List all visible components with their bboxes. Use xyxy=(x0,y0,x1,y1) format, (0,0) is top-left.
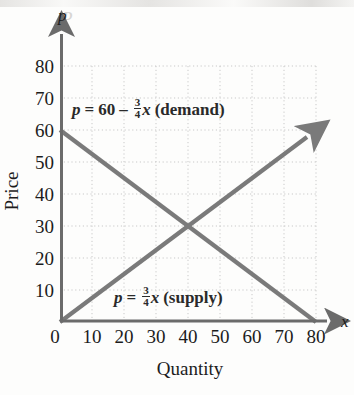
supply-eq-tag: (supply) xyxy=(159,288,223,308)
y-tick-label-70: 70 xyxy=(20,89,54,108)
supply-eq-variable: x xyxy=(151,288,160,308)
y-tick-label-10: 10 xyxy=(20,281,54,300)
y-tick-label-80: 80 xyxy=(20,57,54,76)
x-tick-label-80: 80 xyxy=(299,327,333,346)
y-tick-label-30: 30 xyxy=(20,217,54,236)
demand-equation-label: p = 60 – 3 4 x (demand) xyxy=(72,98,225,121)
demand-eq-minus: – xyxy=(115,100,132,120)
y-tick-label-20: 20 xyxy=(20,249,54,268)
origin-label: 0 xyxy=(44,327,66,346)
x-axis-variable-label: x xyxy=(341,312,349,332)
y-tick-label-50: 50 xyxy=(20,153,54,172)
supply-demand-chart-figure: D xyxy=(0,0,354,395)
demand-eq-variable: x xyxy=(142,100,151,120)
supply-eq-p: p xyxy=(114,288,123,308)
x-tick-label-60: 60 xyxy=(235,327,269,346)
x-tick-label-50: 50 xyxy=(203,327,237,346)
supply-eq-fraction: 3 4 xyxy=(142,285,150,308)
y-axis-variable-label: p xyxy=(58,6,67,26)
demand-eq-denominator: 4 xyxy=(134,109,142,120)
supply-equation-label: p = 3 4 x (supply) xyxy=(114,286,223,309)
x-axis-title: Quantity xyxy=(130,358,250,380)
x-tick-label-10: 10 xyxy=(75,327,109,346)
demand-eq-p: p xyxy=(72,100,81,120)
y-tick-label-40: 40 xyxy=(20,185,54,204)
demand-eq-equals: = xyxy=(81,100,99,120)
y-axis-title: Price xyxy=(1,159,23,223)
demand-eq-tag: (demand) xyxy=(151,100,225,120)
x-tick-label-40: 40 xyxy=(171,327,205,346)
demand-eq-fraction: 3 4 xyxy=(134,97,142,120)
demand-eq-constant: 60 xyxy=(98,100,115,120)
x-tick-label-20: 20 xyxy=(107,327,141,346)
y-tick-label-60: 60 xyxy=(20,121,54,140)
x-tick-label-30: 30 xyxy=(139,327,173,346)
x-tick-label-70: 70 xyxy=(267,327,301,346)
supply-eq-denominator: 4 xyxy=(142,297,150,308)
supply-eq-equals: = xyxy=(123,288,141,308)
